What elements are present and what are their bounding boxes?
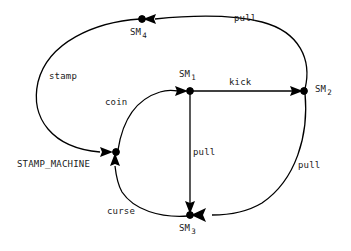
edge-label-coin: coin [105,98,127,107]
node-dot-sm1[interactable] [187,88,194,95]
edge-label-stamp: stamp [49,72,77,81]
edge-stamp-path [36,19,140,152]
edge-coin [118,86,188,150]
edge-pull-top [143,14,307,89]
node-label-stamp-machine: STAMP_MACHINE [17,160,90,169]
edge-kick [191,86,303,96]
edge-label-pull-mid: pull [193,148,215,157]
edge-stamp [36,19,140,157]
edge-pull-right [191,93,306,222]
node-label-sm1: SM1 [179,70,196,81]
node-label-sm4: SM4 [130,28,147,39]
edge-label-kick: kick [229,78,251,87]
node-dot-sm2[interactable] [301,88,308,95]
diagram-canvas [0,0,351,251]
edge-pull-right-path [212,93,306,215]
node-dot-stamp-machine[interactable] [113,149,120,156]
node-dot-sm4[interactable] [139,16,146,23]
edge-label-curse: curse [107,207,135,216]
edge-stamp-arrowhead [100,147,113,157]
node-label-sm2: SM2 [315,85,332,96]
node-label-sm3: SM3 [179,224,196,235]
state-machine-diagram: SM4 SM1 SM2 SM3 STAMP_MACHINE stamp coin… [0,0,351,251]
edge-label-pull-top: pull [234,14,256,23]
node-dot-sm3[interactable] [187,212,194,219]
edge-label-pull-right: pull [298,161,320,170]
